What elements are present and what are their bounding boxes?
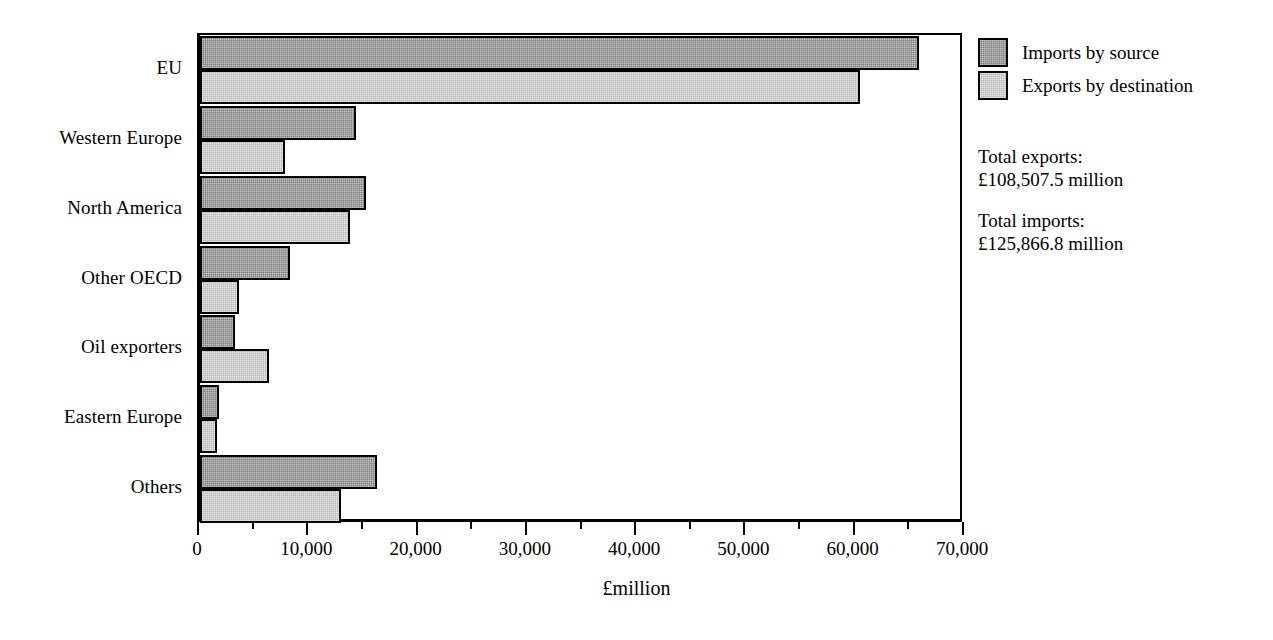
x-tick-label-70000: 70,000 xyxy=(936,539,988,559)
legend-label-imports: Imports by source xyxy=(1022,43,1159,63)
x-tick-35000 xyxy=(580,522,582,529)
category-label-north-america: North America xyxy=(67,198,182,217)
bars-layer xyxy=(200,35,960,519)
bar-western-europe-exports xyxy=(200,140,285,174)
bar-other-oecd-exports xyxy=(200,280,239,314)
total-imports-block: Total imports: £125,866.8 million xyxy=(978,209,1273,255)
x-tick-15000 xyxy=(361,522,363,529)
bar-eastern-europe-exports xyxy=(200,419,217,453)
x-tick-60000 xyxy=(853,522,855,535)
x-tick-65000 xyxy=(907,522,909,529)
category-label-western-europe: Western Europe xyxy=(59,128,182,147)
total-exports-label: Total exports: xyxy=(978,145,1273,168)
x-tick-10000 xyxy=(306,522,308,535)
x-tick-70000 xyxy=(962,522,964,535)
bar-eu-exports xyxy=(200,70,860,104)
x-tick-55000 xyxy=(798,522,800,529)
plot-area xyxy=(197,33,962,522)
bar-oil-exporters-exports xyxy=(200,349,269,383)
x-tick-25000 xyxy=(470,522,472,529)
bar-western-europe-imports xyxy=(200,106,356,140)
bar-others-imports xyxy=(200,455,377,489)
bar-oil-exporters-imports xyxy=(200,315,235,349)
total-exports-block: Total exports: £108,507.5 million xyxy=(978,145,1273,191)
legend: Imports by source Exports by destination xyxy=(978,36,1273,102)
category-label-other-oecd: Other OECD xyxy=(81,268,182,287)
x-tick-label-0: 0 xyxy=(192,539,202,559)
x-tick-label-40000: 40,000 xyxy=(608,539,660,559)
total-imports-value: £125,866.8 million xyxy=(978,232,1273,255)
x-tick-5000 xyxy=(252,522,254,529)
category-label-oil-exporters: Oil exporters xyxy=(81,337,182,356)
legend-label-exports: Exports by destination xyxy=(1022,76,1193,96)
x-tick-40000 xyxy=(634,522,636,535)
bar-eastern-europe-imports xyxy=(200,385,219,419)
category-axis-labels: EUWestern EuropeNorth AmericaOther OECDO… xyxy=(0,33,190,522)
x-tick-label-10000: 10,000 xyxy=(280,539,332,559)
total-imports-label: Total imports: xyxy=(978,209,1273,232)
legend-item-imports: Imports by source xyxy=(978,36,1273,69)
x-tick-45000 xyxy=(689,522,691,529)
bar-others-exports xyxy=(200,489,341,523)
bar-other-oecd-imports xyxy=(200,246,290,280)
category-label-eastern-europe: Eastern Europe xyxy=(64,407,182,426)
trade-bar-chart-figure: EUWestern EuropeNorth AmericaOther OECDO… xyxy=(0,0,1273,640)
x-tick-label-50000: 50,000 xyxy=(717,539,769,559)
legend-swatch-imports-icon xyxy=(978,38,1008,67)
x-tick-label-30000: 30,000 xyxy=(499,539,551,559)
category-label-others: Others xyxy=(131,477,182,496)
category-label-eu: EU xyxy=(156,58,182,77)
legend-swatch-exports-icon xyxy=(978,71,1008,100)
x-tick-20000 xyxy=(416,522,418,535)
x-tick-50000 xyxy=(743,522,745,535)
x-tick-label-60000: 60,000 xyxy=(827,539,879,559)
bar-eu-imports xyxy=(200,36,919,70)
x-axis-title: £million xyxy=(0,577,1273,600)
totals-annotation: Total exports: £108,507.5 million Total … xyxy=(978,145,1273,273)
legend-item-exports: Exports by destination xyxy=(978,69,1273,102)
total-exports-value: £108,507.5 million xyxy=(978,168,1273,191)
x-tick-label-20000: 20,000 xyxy=(389,539,441,559)
x-tick-30000 xyxy=(525,522,527,535)
bar-north-america-imports xyxy=(200,176,366,210)
x-tick-0 xyxy=(197,522,199,535)
bar-north-america-exports xyxy=(200,210,350,244)
